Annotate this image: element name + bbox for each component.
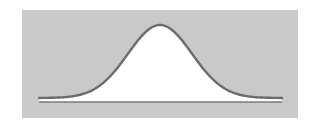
bell-curve-figure (0, 0, 318, 126)
diagram-canvas (0, 0, 318, 126)
